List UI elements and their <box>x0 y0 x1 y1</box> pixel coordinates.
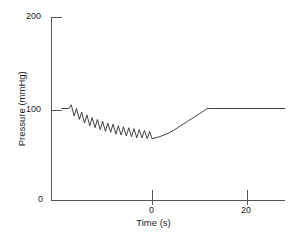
y-tick-label-100: 100 <box>26 105 41 114</box>
pressure-time-chart: 200 100 0 0 20 Time (s) Pressure (mmHg) <box>0 0 307 237</box>
x-axis-title: Time (s) <box>0 218 307 228</box>
y-axis-title: Pressure (mmHg) <box>17 49 27 169</box>
chart-canvas <box>0 0 307 237</box>
y-tick-label-200: 200 <box>26 12 41 21</box>
x-tick-label-0: 0 <box>149 206 154 215</box>
y-tick-label-0: 0 <box>38 195 43 204</box>
x-tick-label-20: 20 <box>241 206 251 215</box>
pressure-trace <box>62 105 285 139</box>
